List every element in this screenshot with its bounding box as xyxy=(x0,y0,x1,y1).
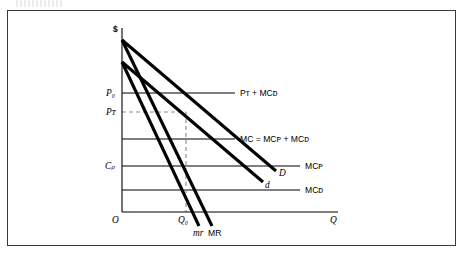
economics-diagram-canvas: $ O Q Q₀ P₀ Pᴛ Cₚ Pᴛ + MCᴅ MC = MCᴘ + MC… xyxy=(0,0,463,258)
origin-label: O xyxy=(112,215,119,225)
curve-marginal-revenue-mr xyxy=(122,62,199,226)
x-axis-label: Q xyxy=(330,215,337,225)
curve-label-mr: mr xyxy=(193,228,204,238)
curve-marginal-revenue-MR xyxy=(122,40,212,226)
curve-demand-upper-D xyxy=(122,40,276,171)
price-label-cp: Cₚ xyxy=(105,161,115,171)
price-label-p0: P₀ xyxy=(105,88,115,98)
curve-demand-lower-d xyxy=(122,62,263,182)
curve-label-MR: MR xyxy=(208,228,221,238)
y-axis-label: $ xyxy=(113,24,118,34)
label-mc-p: MCᴘ xyxy=(305,161,323,171)
curve-label-D: D xyxy=(278,168,286,178)
curve-label-d: d xyxy=(265,180,270,190)
price-label-pt: Pᴛ xyxy=(105,107,117,117)
x-tick-label-q0: Q₀ xyxy=(178,215,188,225)
label-pt-plus-mcd: Pᴛ + MCᴅ xyxy=(240,88,278,98)
label-mc-d: MCᴅ xyxy=(305,185,323,195)
label-mc-total: MC = MCᴘ + MCᴅ xyxy=(240,134,309,144)
